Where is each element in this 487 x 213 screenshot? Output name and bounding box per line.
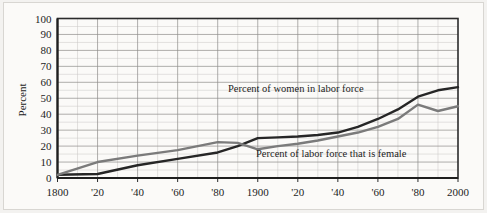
y-tick-label: 10 (41, 156, 53, 168)
y-tick-label: 50 (41, 92, 53, 104)
annotation-labor-force-female-share: Percent of labor force that is female (256, 148, 407, 159)
x-tick-label: '80 (211, 186, 224, 198)
annotation-women-in-labor-force: Percent of women in labor force (228, 83, 364, 94)
x-axis-tick-labels: 1800'20'40'60'801900'20'40'60'802000 (47, 186, 470, 198)
x-tick-label: '60 (371, 186, 384, 198)
x-tick-label: '40 (331, 186, 344, 198)
x-tick-label: '20 (291, 186, 304, 198)
figure-container: 0102030405060708090100 1800'20'40'60'801… (0, 0, 487, 213)
y-tick-label: 40 (41, 108, 53, 120)
x-tick-label: 1900 (247, 186, 270, 198)
x-tick-label: '20 (91, 186, 104, 198)
x-tick-label: '40 (131, 186, 144, 198)
x-tick-label: 2000 (447, 186, 470, 198)
y-axis-tick-labels: 0102030405060708090100 (35, 13, 52, 185)
y-tick-label: 80 (41, 44, 53, 56)
x-tick-label: '80 (411, 186, 424, 198)
y-tick-label: 0 (46, 172, 52, 184)
x-tick-label: '60 (171, 186, 184, 198)
x-tick-label: 1800 (47, 186, 70, 198)
y-tick-label: 20 (41, 140, 53, 152)
y-tick-label: 100 (35, 13, 52, 25)
y-axis-title: Percent (16, 84, 28, 117)
y-tick-label: 90 (41, 28, 53, 40)
line-chart-svg: 0102030405060708090100 1800'20'40'60'801… (0, 0, 487, 213)
chart-plot-area: 0102030405060708090100 1800'20'40'60'801… (0, 0, 487, 213)
y-tick-label: 60 (41, 76, 53, 88)
y-tick-label: 30 (41, 124, 53, 136)
y-tick-label: 70 (41, 60, 53, 72)
